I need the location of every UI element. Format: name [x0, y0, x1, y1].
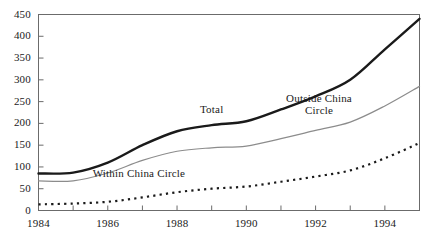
y-axis-tick-label: 300: [3, 74, 31, 85]
y-axis-tick-label: 250: [3, 96, 31, 107]
x-axis-tick-label: 1990: [224, 218, 268, 229]
line-chart-canvas: [0, 0, 431, 241]
y-axis-tick-label: 450: [3, 9, 31, 20]
x-axis-ticks: [39, 206, 420, 211]
y-axis-tick-label: 150: [3, 139, 31, 150]
y-axis-tick-label: 350: [3, 52, 31, 63]
x-axis-tick-label: 1994: [363, 218, 407, 229]
x-axis-tick-label: 1992: [294, 218, 338, 229]
series-line-total: [39, 19, 420, 174]
y-axis-tick-label: 100: [3, 161, 31, 172]
y-axis-tick-label: 200: [3, 117, 31, 128]
y-axis-tick-label: 50: [3, 183, 31, 194]
chart-figure: 050100150200250300350400450 198419861988…: [0, 0, 431, 241]
x-axis-tick-label: 1986: [86, 218, 130, 229]
y-axis-tick-label: 400: [3, 30, 31, 41]
x-axis-tick-label: 1984: [17, 218, 61, 229]
series-label-outside-china-circle: Outside China Circle: [279, 92, 359, 116]
y-axis-tick-label: 0: [3, 205, 31, 216]
x-axis-tick-label: 1988: [155, 218, 199, 229]
series-label-total: Total: [190, 103, 234, 115]
series-label-within-china-circle: Within China Circle: [84, 167, 194, 179]
